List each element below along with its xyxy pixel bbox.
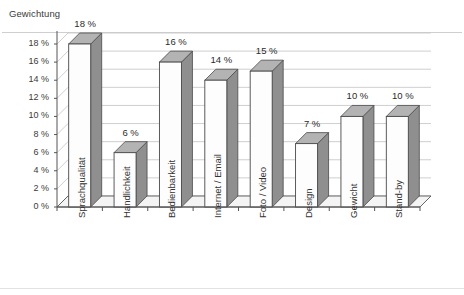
gridline-depth-connector (57, 105, 68, 116)
bar-side-face (363, 105, 374, 207)
bar-value-label: 7 % (290, 118, 334, 129)
y-tick-label: 8 % (15, 129, 49, 139)
y-tick-label: 2 % (15, 183, 49, 193)
chart-floor (57, 196, 431, 207)
bar-side-face (408, 105, 419, 207)
y-tick-label: 16 % (15, 56, 49, 66)
x-category-label: Gewicht (348, 184, 359, 218)
gridline-depth-connector (57, 178, 68, 189)
plot-area: 0 %2 %4 %6 %8 %10 %12 %14 %16 %18 % 18 %… (0, 0, 464, 295)
x-category-label: Internet / Email (212, 154, 223, 218)
chart-figure: Gewichtung 0 %2 %4 %6 %8 %10 %12 %14 %16… (0, 0, 464, 295)
bar-value-label: 18 % (63, 18, 107, 29)
bar-value-label: 10 % (335, 90, 379, 101)
gridline-depth-connector (57, 160, 68, 171)
bar-value-label: 16 % (154, 36, 198, 47)
gridlines-group (57, 33, 431, 207)
x-category-label: Stand-by (393, 180, 404, 218)
bar-side-face (227, 69, 238, 207)
bar-side-face (181, 51, 192, 207)
chart-canvas (0, 0, 464, 295)
bar-side-face (272, 60, 283, 207)
gridline-depth-connector (57, 87, 68, 98)
x-category-label: Bedienbarkeit (166, 160, 177, 218)
bar-side-face (91, 33, 102, 207)
bar-value-label: 6 % (109, 127, 153, 138)
x-category-label: Design (303, 188, 314, 218)
bar-value-label: 10 % (381, 90, 425, 101)
y-tick-label: 4 % (15, 165, 49, 175)
gridline-depth-connector (57, 124, 68, 135)
gridline-depth-connector (57, 51, 68, 62)
y-tick-label: 12 % (15, 92, 49, 102)
gridline-depth-connector (57, 33, 68, 44)
bar-value-label: 14 % (199, 54, 243, 65)
y-tick-label: 6 % (15, 147, 49, 157)
bar-value-label: 15 % (245, 45, 289, 56)
y-tick-label: 0 % (15, 201, 49, 211)
x-category-label: Foto / Video (257, 167, 268, 218)
x-category-label: Sprachqualität (76, 157, 87, 218)
y-tick-label: 14 % (15, 74, 49, 84)
bar-side-face (318, 133, 329, 207)
y-tick-label: 10 % (15, 110, 49, 120)
floor-group (57, 196, 431, 207)
gridline-depth-connector (57, 69, 68, 80)
y-tick-label: 18 % (15, 38, 49, 48)
gridline-depth-connector (57, 142, 68, 153)
x-category-label: Handlichkeit (121, 166, 132, 218)
